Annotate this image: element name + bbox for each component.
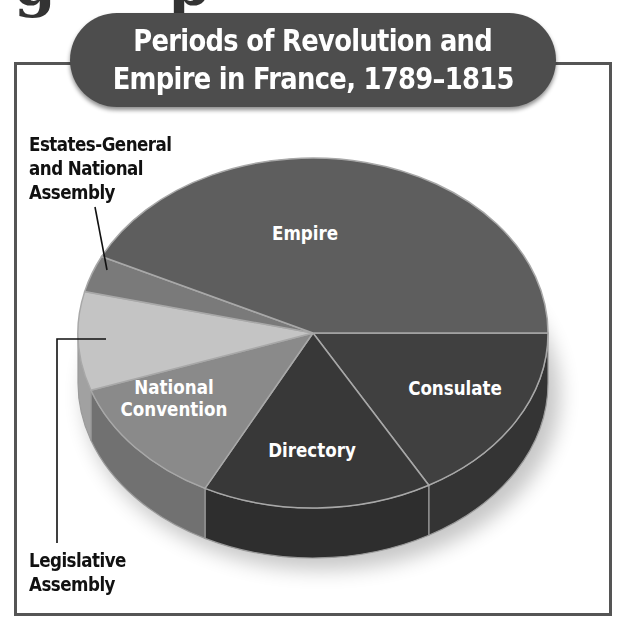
pie-chart: EmpireConsulateDirectoryNationalConventi… bbox=[0, 0, 618, 622]
label-legislative-assembly: Legislative Assembly bbox=[29, 548, 126, 596]
slice-label-national-convention: NationalConvention bbox=[121, 376, 228, 420]
slice-label-empire: Empire bbox=[272, 222, 338, 244]
slice-label-directory: Directory bbox=[268, 439, 356, 461]
slice-label-consulate: Consulate bbox=[408, 377, 502, 399]
label-estates-general: Estates-General and National Assembly bbox=[29, 132, 172, 204]
